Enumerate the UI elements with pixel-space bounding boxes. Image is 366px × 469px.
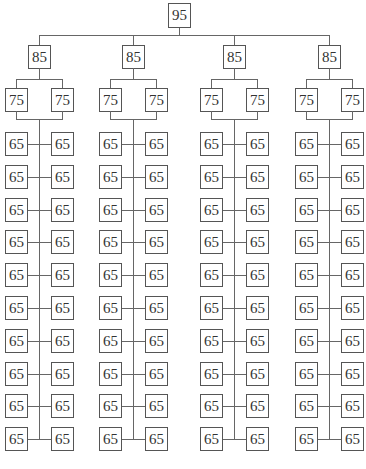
leaf-node: 65 xyxy=(295,427,318,451)
connector-line xyxy=(121,308,146,309)
connector-line xyxy=(27,242,52,243)
connector-line xyxy=(121,242,146,243)
level3-node: 75 xyxy=(295,88,318,112)
leaf-node: 65 xyxy=(5,394,28,418)
leaf-node: 65 xyxy=(145,427,168,451)
leaf-node: 65 xyxy=(295,165,318,189)
tree-diagram: 9585757565656565656565656565656565656565… xyxy=(0,0,366,469)
connector-line xyxy=(222,275,247,276)
level3-node: 75 xyxy=(51,88,74,112)
leaf-node: 65 xyxy=(246,198,269,222)
leaf-node: 65 xyxy=(145,198,168,222)
leaf-node: 65 xyxy=(200,230,223,254)
connector-line xyxy=(317,308,342,309)
connector-line xyxy=(121,439,146,440)
leaf-node: 65 xyxy=(99,165,122,189)
leaf-node: 65 xyxy=(200,362,223,386)
leaf-node: 65 xyxy=(246,362,269,386)
leaf-node: 65 xyxy=(145,329,168,353)
leaf-node: 65 xyxy=(99,296,122,320)
leaf-node: 65 xyxy=(295,296,318,320)
leaf-node: 65 xyxy=(341,165,364,189)
leaf-node: 65 xyxy=(51,362,74,386)
leaf-node: 65 xyxy=(200,329,223,353)
leaf-node: 65 xyxy=(5,362,28,386)
connector-line xyxy=(329,119,330,440)
connector-line xyxy=(306,79,353,80)
leaf-node: 65 xyxy=(145,296,168,320)
connector-line xyxy=(222,406,247,407)
leaf-node: 65 xyxy=(246,263,269,287)
leaf-node: 65 xyxy=(51,230,74,254)
level2-node: 85 xyxy=(223,45,246,69)
leaf-node: 65 xyxy=(200,394,223,418)
level3-node: 75 xyxy=(5,88,28,112)
connector-line xyxy=(39,35,330,36)
leaf-node: 65 xyxy=(99,362,122,386)
connector-line xyxy=(317,406,342,407)
leaf-node: 65 xyxy=(341,362,364,386)
connector-line xyxy=(27,406,52,407)
connector-line xyxy=(27,341,52,342)
connector-line xyxy=(121,210,146,211)
leaf-node: 65 xyxy=(99,329,122,353)
leaf-node: 65 xyxy=(200,296,223,320)
connector-line xyxy=(317,177,342,178)
leaf-node: 65 xyxy=(5,427,28,451)
connector-line xyxy=(222,210,247,211)
leaf-node: 65 xyxy=(51,329,74,353)
connector-line xyxy=(27,308,52,309)
connector-line xyxy=(222,242,247,243)
connector-line xyxy=(121,144,146,145)
leaf-node: 65 xyxy=(295,263,318,287)
leaf-node: 65 xyxy=(5,296,28,320)
connector-line xyxy=(317,144,342,145)
leaf-node: 65 xyxy=(51,132,74,156)
leaf-node: 65 xyxy=(341,230,364,254)
leaf-node: 65 xyxy=(341,329,364,353)
leaf-node: 65 xyxy=(295,329,318,353)
leaf-node: 65 xyxy=(5,132,28,156)
connector-line xyxy=(16,79,63,80)
leaf-node: 65 xyxy=(51,198,74,222)
level2-node: 85 xyxy=(318,45,341,69)
leaf-node: 65 xyxy=(5,263,28,287)
connector-line xyxy=(27,210,52,211)
leaf-node: 65 xyxy=(246,132,269,156)
connector-line xyxy=(121,341,146,342)
leaf-node: 65 xyxy=(99,394,122,418)
connector-line xyxy=(222,341,247,342)
leaf-node: 65 xyxy=(246,230,269,254)
leaf-node: 65 xyxy=(5,165,28,189)
leaf-node: 65 xyxy=(99,230,122,254)
leaf-node: 65 xyxy=(246,329,269,353)
leaf-node: 65 xyxy=(145,230,168,254)
leaf-node: 65 xyxy=(99,427,122,451)
connector-line xyxy=(317,374,342,375)
leaf-node: 65 xyxy=(341,296,364,320)
connector-line xyxy=(110,79,157,80)
connector-line xyxy=(27,144,52,145)
leaf-node: 65 xyxy=(246,165,269,189)
connector-line xyxy=(121,406,146,407)
leaf-node: 65 xyxy=(5,230,28,254)
level3-node: 75 xyxy=(341,88,364,112)
connector-line xyxy=(317,242,342,243)
leaf-node: 65 xyxy=(200,263,223,287)
leaf-node: 65 xyxy=(341,263,364,287)
leaf-node: 65 xyxy=(341,427,364,451)
leaf-node: 65 xyxy=(51,427,74,451)
leaf-node: 65 xyxy=(295,198,318,222)
root-node: 95 xyxy=(168,3,191,28)
connector-line xyxy=(27,275,52,276)
leaf-node: 65 xyxy=(295,132,318,156)
level3-node: 75 xyxy=(145,88,168,112)
leaf-node: 65 xyxy=(99,263,122,287)
leaf-node: 65 xyxy=(200,165,223,189)
connector-line xyxy=(27,439,52,440)
leaf-node: 65 xyxy=(51,165,74,189)
leaf-node: 65 xyxy=(246,296,269,320)
level3-node: 75 xyxy=(99,88,122,112)
leaf-node: 65 xyxy=(51,394,74,418)
connector-line xyxy=(211,79,258,80)
